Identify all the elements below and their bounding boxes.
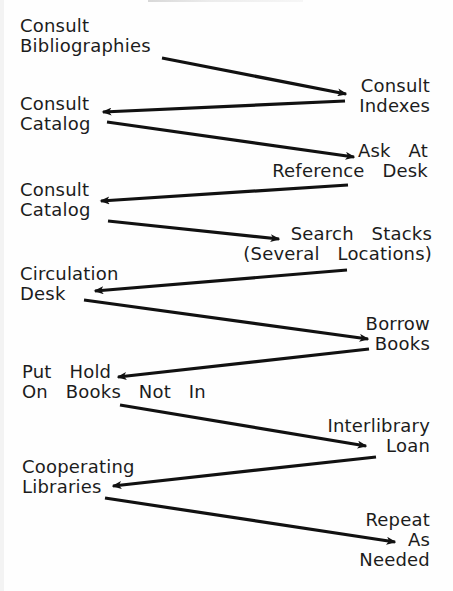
node-label-line: Consult <box>20 94 91 114</box>
node-label-line: As <box>359 530 430 550</box>
arrow-consult-bibliographies-to-consult-indexes <box>162 58 346 94</box>
node-label-line: Loan <box>327 436 430 456</box>
node-repeat-as-needed: RepeatAsNeeded <box>359 510 430 570</box>
node-label-line: Cooperating <box>22 457 135 477</box>
node-label-line: Libraries <box>22 477 135 497</box>
node-consult-bibliographies: ConsultBibliographies <box>20 16 151 56</box>
node-label-line: Bibliographies <box>20 36 151 56</box>
node-borrow-books: BorrowBooks <box>366 314 430 354</box>
arrow-cooperating-libraries-to-repeat-as-needed <box>105 498 395 542</box>
node-consult-catalog-1: ConsultCatalog <box>20 94 91 134</box>
node-label-line: Reference Desk <box>272 161 428 181</box>
node-interlibrary-loan: InterlibraryLoan <box>327 416 430 456</box>
arrow-interlibrary-loan-to-cooperating-libraries <box>113 457 376 486</box>
arrow-circulation-desk-to-borrow-books <box>84 300 368 339</box>
node-label-line: Catalog <box>20 200 91 220</box>
node-circulation-desk: CirculationDesk <box>20 264 119 304</box>
node-label-line: Interlibrary <box>327 416 430 436</box>
arrow-ask-at-reference-desk-to-consult-catalog-2 <box>101 185 348 201</box>
node-label-line: Books <box>366 334 430 354</box>
node-label-line: Repeat <box>359 510 430 530</box>
node-consult-indexes: ConsultIndexes <box>359 76 430 116</box>
node-label-line: Indexes <box>359 96 430 116</box>
node-label-line: Borrow <box>366 314 430 334</box>
node-label-line: Put Hold <box>22 362 206 382</box>
node-label-line: Circulation <box>20 264 119 284</box>
node-label-line: Search Stacks <box>243 224 432 244</box>
node-label-line: On Books Not In <box>22 382 206 402</box>
node-label-line: Consult <box>20 16 151 36</box>
node-label-line: Needed <box>359 550 430 570</box>
node-search-stacks: Search Stacks(Several Locations) <box>243 224 432 264</box>
arrow-consult-indexes-to-consult-catalog-1 <box>103 101 345 112</box>
node-put-hold: Put HoldOn Books Not In <box>22 362 206 402</box>
node-label-line: Desk <box>20 284 119 304</box>
node-label-line: Consult <box>359 76 430 96</box>
node-ask-at-reference-desk: Ask AtReference Desk <box>272 141 428 181</box>
node-cooperating-libraries: CooperatingLibraries <box>22 457 135 497</box>
node-label-line: Ask At <box>272 141 428 161</box>
arrow-search-stacks-to-circulation-desk <box>95 270 347 291</box>
node-label-line: (Several Locations) <box>243 244 432 264</box>
node-label-line: Catalog <box>20 114 91 134</box>
node-consult-catalog-2: ConsultCatalog <box>20 180 91 220</box>
node-label-line: Consult <box>20 180 91 200</box>
diagram-canvas: ConsultBibliographiesConsultIndexesConsu… <box>0 0 453 591</box>
